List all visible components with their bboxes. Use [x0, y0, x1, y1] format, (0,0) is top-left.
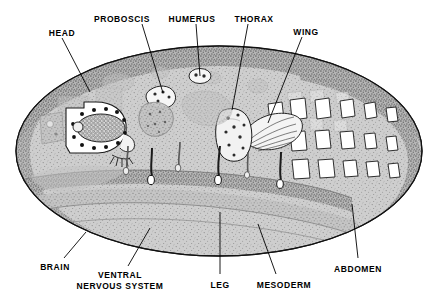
- label-brain: BRAIN: [40, 262, 70, 273]
- label-head: HEAD: [49, 28, 75, 39]
- ommatidial-field: [77, 114, 125, 142]
- label-leg: LEG: [210, 280, 229, 291]
- label-abdomen: ABDOMEN: [334, 264, 382, 275]
- label-proboscis: PROBOSCIS: [94, 14, 150, 25]
- drosophila-larva-diagram: HEADPROBOSCISHUMERUSTHORAXWINGBRAINVENTR…: [0, 0, 438, 298]
- larval-body: [16, 46, 422, 256]
- label-mesoderm: MESODERM: [257, 280, 311, 291]
- label-ventral-nervous-system: VENTRAL NERVOUS SYSTEM: [77, 270, 164, 291]
- diagram-canvas: [0, 0, 438, 298]
- leader-line-brain: [64, 232, 86, 258]
- label-thorax: THORAX: [234, 14, 273, 25]
- label-wing: WING: [293, 27, 318, 38]
- label-humerus: HUMERUS: [169, 14, 216, 25]
